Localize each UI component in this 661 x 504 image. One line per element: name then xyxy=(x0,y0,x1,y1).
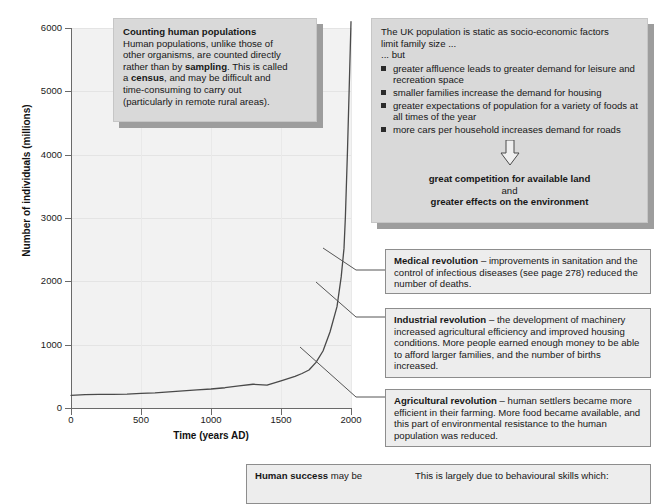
callout-counting-human-populations: Counting human populations Human populat… xyxy=(113,18,317,122)
census-box-line4-a: a xyxy=(123,72,131,83)
human-success-right: This is largely due to behavioural skill… xyxy=(415,470,643,498)
uk-bullet-4: more cars per household increases demand… xyxy=(381,124,638,136)
uk-bullet-2: smaller families increase the demand for… xyxy=(381,87,638,99)
census-box-line3-c: . This is called xyxy=(227,61,288,72)
uk-bullet-list: greater affluence leads to greater deman… xyxy=(381,63,638,136)
census-box-line4-c: , and may be difficult and xyxy=(164,72,271,83)
census-box-line5: time-consuming to carry out xyxy=(123,84,241,95)
medical-title: Medical revolution xyxy=(394,255,478,266)
callout-medical-revolution: Medical revolution – improvements in san… xyxy=(385,249,651,294)
industrial-dash: – xyxy=(486,314,497,325)
uk-intro-line2: limit family size ... xyxy=(381,38,456,49)
uk-bullet-1: greater affluence leads to greater deman… xyxy=(381,63,638,86)
uk-conclusion-line2: and xyxy=(381,185,638,197)
callout-agricultural-revolution: Agricultural revolution – human settlers… xyxy=(385,389,651,447)
census-box-heading: Counting human populations xyxy=(123,26,307,38)
industrial-title: Industrial revolution xyxy=(394,314,486,325)
census-box-line6: (particularly in remote rural areas). xyxy=(123,96,270,107)
term-census: census xyxy=(131,72,164,83)
human-success-left: Human success may be xyxy=(255,470,415,498)
census-box-line3-a: rather than by xyxy=(123,61,185,72)
uk-intro-line1: The UK population is static as socio-eco… xyxy=(381,26,609,37)
agricultural-title: Agricultural revolution xyxy=(394,395,497,406)
human-success-rest: may be xyxy=(328,470,362,481)
callout-human-success: Human success may be This is largely due… xyxy=(246,464,651,504)
uk-conclusion-line1: great competition for available land xyxy=(381,173,638,185)
down-arrow-icon xyxy=(381,140,638,169)
census-box-line2: other organisms, are counted directly xyxy=(123,49,281,60)
census-box-line1: Human populations, unlike those of xyxy=(123,38,273,49)
medical-dash: – xyxy=(478,255,489,266)
uk-bullet-3: greater expectations of population for a… xyxy=(381,100,638,123)
callout-industrial-revolution: Industrial revolution – the development … xyxy=(385,308,651,378)
agricultural-dash: – xyxy=(497,395,508,406)
uk-but: ... but xyxy=(381,49,405,60)
callout-uk-population: The UK population is static as socio-eco… xyxy=(371,18,648,223)
uk-conclusion-line3: greater effects on the environment xyxy=(381,196,638,208)
term-sampling: sampling xyxy=(185,61,227,72)
human-success-term: Human success xyxy=(255,470,328,481)
